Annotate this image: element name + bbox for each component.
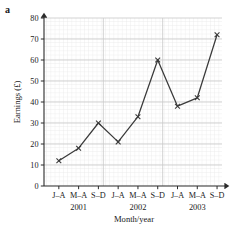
x-axis-group-labels: 200120022003: [70, 203, 205, 212]
y-axis-title: Earnings (£): [12, 81, 22, 124]
x-group-label: 2002: [130, 203, 147, 212]
y-tick-label: 70: [30, 35, 38, 44]
x-tick-label: M–A: [70, 191, 87, 200]
y-tick-label: 20: [30, 140, 38, 149]
x-tick-label: J–A: [52, 191, 65, 200]
x-tick-label: M–A: [189, 191, 206, 200]
y-tick-label: 30: [30, 119, 38, 128]
x-tick-label: S–D: [91, 191, 106, 200]
y-tick-label: 0: [34, 182, 38, 191]
y-tick-label: 80: [30, 14, 38, 23]
x-group-label: 2003: [189, 203, 206, 212]
y-tick-label: 40: [30, 98, 38, 107]
x-tick-label: M–A: [129, 191, 146, 200]
line-chart: 01020304050607080 J–AM–AS–DJ–AM–AS–DJ–AM…: [0, 0, 233, 227]
x-axis-title: Month/year: [114, 214, 154, 224]
panel-letter: a: [5, 4, 10, 15]
x-tick-label: J–A: [112, 191, 125, 200]
x-axis-tick-labels: J–AM–AS–DJ–AM–AS–DJ–AM–AS–D: [52, 191, 224, 200]
y-axis-tick-labels: 01020304050607080: [30, 14, 38, 191]
figure-panel: a 01020304050607080 J–AM–AS–DJ–AM–AS–DJ–…: [0, 0, 233, 227]
x-group-label: 2001: [70, 203, 87, 212]
y-tick-label: 60: [30, 56, 38, 65]
y-tick-label: 10: [30, 161, 38, 170]
x-tick-label: J–A: [171, 191, 184, 200]
x-tick-label: S–D: [210, 191, 225, 200]
x-tick-label: S–D: [150, 191, 165, 200]
y-tick-label: 50: [30, 77, 38, 86]
